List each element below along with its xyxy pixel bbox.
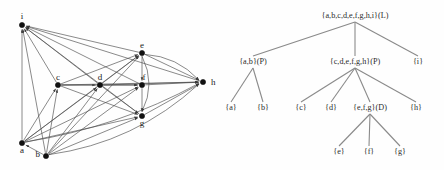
graph-node-label-b: b	[36, 149, 41, 159]
graph-edge-a-to-c	[24, 89, 56, 141]
tree-link-cdefgh-to-efg	[355, 68, 370, 102]
graph-edge-b-to-f	[49, 88, 139, 154]
hierarchy-tree-svg: {a,b,c,d,e,f,g,h,i}(L){a,b}(P){c,d,e,f,g…	[222, 0, 444, 170]
graph-edge-f-to-i	[26, 27, 139, 84]
graph-node-dot-b	[43, 153, 48, 158]
graph-node-a[interactable]: a	[19, 140, 24, 155]
graph-node-label-h: h	[211, 77, 216, 87]
tree-link-cdefgh-to-c	[301, 68, 355, 102]
graph-node-label-g: g	[140, 118, 145, 128]
graph-node-d[interactable]: d	[97, 72, 102, 88]
tree-link-root-to-i	[355, 22, 418, 56]
graph-node-g[interactable]: g	[139, 113, 144, 128]
graph-edge-b-to-e	[48, 56, 139, 153]
graph-node-dot-i	[19, 22, 24, 27]
graph-edge-a-to-h	[25, 83, 199, 142]
tree-node-label-c[interactable]: {c}	[295, 103, 307, 112]
graph-node-label-f: f	[143, 72, 146, 82]
graph-node-dot-e	[139, 50, 144, 55]
graph-edge-group	[22, 26, 200, 155]
tree-link-efg-to-e	[339, 114, 370, 146]
graph-node-e[interactable]: e	[139, 40, 144, 56]
tree-node-label-a[interactable]: {a}	[225, 103, 237, 112]
graph-node-f[interactable]: f	[139, 72, 145, 88]
graph-edge-g-to-h	[145, 84, 199, 114]
tree-node-label-root[interactable]: {a,b,c,d,e,f,g,h,i}(L)	[322, 11, 389, 20]
graph-node-h[interactable]: h	[200, 77, 216, 87]
tree-node-label-d[interactable]: {d}	[325, 103, 337, 112]
hierarchy-tree-panel: {a,b,c,d,e,f,g,h,i}(L){a,b}(P){c,d,e,f,g…	[222, 0, 444, 170]
graph-node-label-e: e	[140, 40, 144, 50]
graph-edge-d-to-e	[103, 56, 139, 83]
graph-edge-c-to-i	[24, 29, 56, 82]
tree-node-label-g[interactable]: {g}	[394, 147, 406, 156]
tree-node-label-b[interactable]: {b}	[257, 103, 269, 112]
tree-node-label-h[interactable]: {h}	[410, 103, 422, 112]
graph-edge-e-to-i	[26, 26, 139, 52]
tree-link-group	[231, 22, 418, 146]
graph-node-i[interactable]: i	[19, 11, 24, 28]
tree-node-label-cdefgh[interactable]: {c,d,e,f,g,h}(P)	[330, 57, 381, 66]
graph-edge-c-to-g	[61, 86, 138, 114]
tree-node-label-f[interactable]: {f}	[364, 147, 375, 156]
directed-graph-svg: iabcdefgh	[0, 0, 222, 170]
graph-node-label-c: c	[56, 72, 60, 82]
graph-edge-e-to-h	[145, 54, 199, 80]
graph-node-label-d: d	[98, 72, 103, 82]
tree-node-label-e[interactable]: {e}	[333, 147, 345, 156]
graph-edge-a-to-f	[25, 87, 138, 142]
graph-node-label-i: i	[21, 11, 24, 21]
figure-canvas: iabcdefgh {a,b,c,d,e,f,g,h,i}(L){a,b}(P)…	[0, 0, 444, 170]
directed-graph-panel: iabcdefgh	[0, 0, 222, 170]
tree-link-root-to-ab	[253, 22, 355, 56]
tree-node-label-i[interactable]: {i}	[413, 57, 423, 66]
graph-edge-d-to-g	[103, 87, 139, 113]
graph-node-label-a: a	[20, 145, 24, 155]
tree-link-cdefgh-to-d	[331, 68, 355, 102]
tree-node-label-ab[interactable]: {a,b}(P)	[239, 57, 267, 66]
graph-node-c[interactable]: c	[55, 72, 60, 88]
graph-node-dot-h	[200, 79, 205, 84]
graph-edge-b-to-d	[48, 89, 97, 154]
tree-link-cdefgh-to-h	[355, 68, 416, 102]
tree-link-ab-to-b	[253, 68, 263, 102]
tree-link-ab-to-a	[231, 68, 253, 102]
tree-link-efg-to-f	[369, 114, 370, 146]
graph-node-dot-f	[139, 82, 144, 87]
graph-edge-h-to-i	[26, 26, 200, 81]
tree-node-label-efg[interactable]: {e,f,g}(D)	[353, 103, 387, 112]
graph-node-dot-d	[97, 82, 102, 87]
graph-node-dot-c	[55, 82, 60, 87]
tree-link-efg-to-g	[370, 114, 400, 146]
